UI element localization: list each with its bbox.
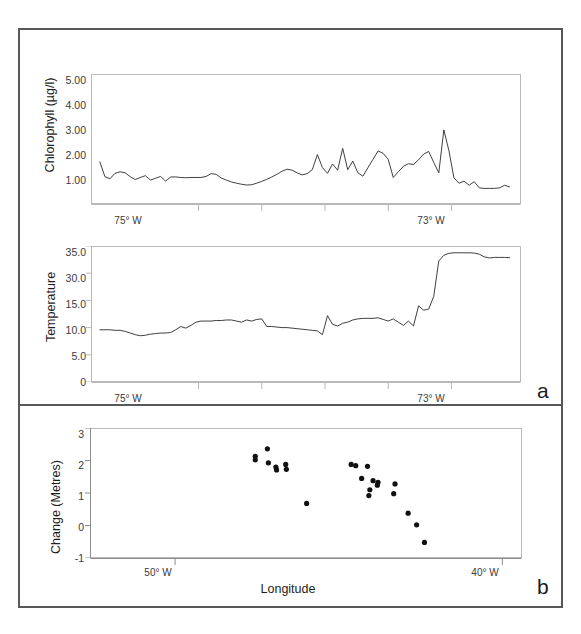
temperature-ytick-15: 15.0 bbox=[40, 299, 86, 310]
scatter-point bbox=[353, 463, 358, 468]
change-xtick-40w: 40° W bbox=[450, 568, 520, 578]
change-y-axis-spine bbox=[82, 428, 92, 558]
temperature-plot-area bbox=[91, 246, 521, 382]
change-plot-area bbox=[90, 428, 522, 558]
scatter-point bbox=[266, 460, 271, 465]
panel-a-temperature: Temperature 35.0 30.0 15.0 10.0 5.0 0 75… bbox=[18, 212, 563, 404]
scatter-point bbox=[284, 467, 289, 472]
panel-letter-a: a bbox=[537, 380, 549, 401]
panel-letter-b: b bbox=[537, 576, 549, 597]
scatter-point bbox=[406, 511, 411, 516]
scatter-point bbox=[375, 483, 380, 488]
temperature-ytick-5: 5.0 bbox=[40, 351, 86, 362]
scatter-point bbox=[392, 481, 397, 486]
change-xtick-50w: 50° W bbox=[123, 568, 193, 578]
temperature-ytick-30: 30.0 bbox=[40, 273, 86, 284]
change-ytick-0: 0 bbox=[44, 522, 84, 533]
change-x-axis-title: Longitude bbox=[208, 582, 368, 596]
temperature-xtick-73w: 73° W bbox=[376, 394, 486, 404]
scatter-point bbox=[304, 501, 309, 506]
change-ytick-2: 2 bbox=[44, 460, 84, 471]
scatter-point bbox=[265, 446, 270, 451]
temperature-ytick-0: 0 bbox=[40, 377, 86, 388]
temperature-ytick-10: 10.0 bbox=[40, 325, 86, 336]
change-ytick-neg1: -1 bbox=[40, 553, 84, 564]
chlorophyll-ytick-5: 5.00 bbox=[40, 75, 86, 86]
scatter-point bbox=[274, 467, 279, 472]
scatter-point bbox=[414, 522, 419, 527]
chlorophyll-ytick-2: 2.00 bbox=[40, 150, 86, 161]
scatter-point bbox=[359, 476, 364, 481]
chlorophyll-ytick-4: 4.00 bbox=[40, 100, 86, 111]
temperature-y-axis-spine bbox=[83, 246, 93, 382]
temperature-xtick-75w: 75° W bbox=[73, 394, 183, 404]
panel-b-change: Change (Metres) 3 2 1 0 -1 50° W 40° W L… bbox=[18, 408, 563, 606]
change-ytick-3: 3 bbox=[44, 429, 84, 440]
panel-divider bbox=[18, 404, 563, 406]
scatter-point bbox=[367, 487, 372, 492]
change-ytick-1: 1 bbox=[44, 491, 84, 502]
scatter-point bbox=[370, 478, 375, 483]
chlorophyll-ytick-3: 3.00 bbox=[40, 125, 86, 136]
scatter-point bbox=[391, 491, 396, 496]
temperature-x-axis bbox=[91, 382, 521, 392]
scatter-point bbox=[366, 493, 371, 498]
chlorophyll-plot-area bbox=[91, 74, 521, 204]
chlorophyll-ytick-1: 1.00 bbox=[40, 175, 86, 186]
scatter-point bbox=[365, 464, 370, 469]
panel-a-chlorophyll: Chlorophyll (µg/l) 5.00 4.00 3.00 2.00 1… bbox=[18, 30, 563, 230]
scatter-point bbox=[422, 540, 427, 545]
figure-root: Chlorophyll (µg/l) 5.00 4.00 3.00 2.00 1… bbox=[0, 0, 581, 634]
scatter-point bbox=[283, 462, 288, 467]
scatter-point bbox=[253, 457, 258, 462]
temperature-ytick-35: 35.0 bbox=[40, 247, 86, 258]
scatter-point bbox=[349, 462, 354, 467]
